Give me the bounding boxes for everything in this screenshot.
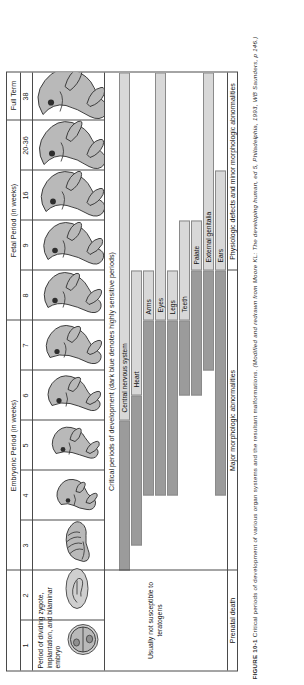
critical-periods-chart: Embryonic Period (in weeks) Fetal Period…: [6, 71, 238, 671]
footer-sep-1: [227, 569, 238, 570]
bar-palate-sensitive: [191, 270, 202, 395]
embryo-week4-drawing: [52, 471, 98, 517]
week-label-4: 4: [20, 470, 32, 520]
fetus-full-term-drawing: [32, 72, 104, 126]
bar-label-ears: Ears: [215, 212, 226, 262]
bar-label-external-genitalia: External genitalia: [203, 152, 214, 262]
week-label-8: 8: [20, 270, 32, 320]
bar-label-heart: Heart: [131, 317, 142, 387]
embryo-illustration-band: [32, 72, 104, 670]
early-period-divider: [104, 569, 227, 570]
period-sep-2: [7, 319, 20, 320]
zygote-2cell-drawing: [66, 622, 100, 656]
bar-cns-sensitive: [119, 420, 130, 570]
embryo-week5-drawing: [48, 421, 100, 467]
figure-source: (Modified and redrawn from Moore KL: The…: [251, 36, 258, 367]
week-label-7: 7: [20, 320, 32, 370]
figure-caption: FIGURE 10-1 Critical periods of developm…: [250, 7, 259, 679]
rule-period-week: [20, 72, 21, 670]
rotated-figure-wrapper: Embryonic Period (in weeks) Fetal Period…: [0, 0, 304, 685]
figure-body: Embryonic Period (in weeks) Fetal Period…: [0, 0, 304, 685]
footer-label-minor-abnormalities: Physiologic defects and minor morphologi…: [227, 72, 238, 270]
footer-label-prenatal-death: Prenatal death: [227, 570, 238, 670]
figure-title: Critical periods of development of vario…: [251, 369, 258, 637]
week-label-3: 3: [20, 520, 32, 570]
bar-label-eyes: Eyes: [155, 232, 166, 312]
bar-row-heart: Heart: [131, 70, 142, 670]
bar-legs-sensitive: [167, 320, 178, 495]
bar-label-cns: Central nervous system: [119, 292, 130, 412]
embryo-week3-drawing: [62, 520, 92, 566]
figure-number: FIGURE 10-1: [251, 639, 258, 679]
embryo-week7-drawing: [42, 318, 102, 370]
bar-heart-sensitive: [131, 395, 142, 545]
week-label-1: 1: [20, 620, 32, 670]
bar-ears-sensitive: [215, 270, 226, 495]
bar-row-legs: Legs: [167, 70, 178, 670]
week-label-38: 38: [20, 72, 32, 120]
bar-label-legs: Legs: [167, 270, 178, 314]
embryo-week8-drawing: [40, 266, 102, 320]
week-label-6: 6: [20, 370, 32, 420]
bar-eyes-sensitive: [155, 320, 166, 495]
chart-banner: Critical periods of development (dark bl…: [106, 72, 117, 670]
embryo-week6-drawing: [44, 369, 102, 419]
bar-label-palate: Palate: [191, 218, 202, 264]
bar-label-arms: Arms: [143, 270, 154, 314]
week-label-5: 5: [20, 420, 32, 470]
bar-teeth-sensitive: [179, 320, 190, 395]
bar-row-external-genitalia: External genitalia: [203, 70, 214, 670]
bar-genitalia-sensitive: [203, 270, 214, 370]
bar-arms-sensitive: [143, 320, 154, 495]
bar-row-teeth: Teeth: [179, 70, 190, 670]
footer-sep-2: [227, 269, 238, 270]
week-label-9: 9: [20, 220, 32, 270]
bar-row-palate: Palate: [191, 70, 202, 670]
bilaminar-embryo-drawing: [64, 566, 90, 610]
bar-row-ears: Ears: [215, 70, 226, 670]
week-label-2: 2: [20, 570, 32, 620]
week-label-20-36: 20-36: [20, 120, 32, 170]
period-label-early: [7, 570, 20, 670]
period-label-embryonic: Embryonic Period (in weeks): [7, 320, 20, 570]
bar-row-cns: Central nervous system: [119, 70, 130, 670]
note-not-susceptible: Usually not susceptible to teratogens: [147, 572, 164, 668]
figure-page: Embryonic Period (in weeks) Fetal Period…: [0, 0, 304, 685]
period-sep-3: [7, 119, 20, 120]
footer-label-major-abnormalities: Major morphologic abnormalities: [227, 270, 238, 570]
period-label-full-term: Full Term: [7, 70, 20, 120]
rule-art-banner: [104, 72, 105, 670]
period-sep-1: [7, 569, 20, 570]
period-label-fetal: Fetal Period (in weeks): [7, 120, 20, 320]
week-label-16: 16: [20, 170, 32, 220]
bar-label-teeth: Teeth: [179, 252, 190, 312]
